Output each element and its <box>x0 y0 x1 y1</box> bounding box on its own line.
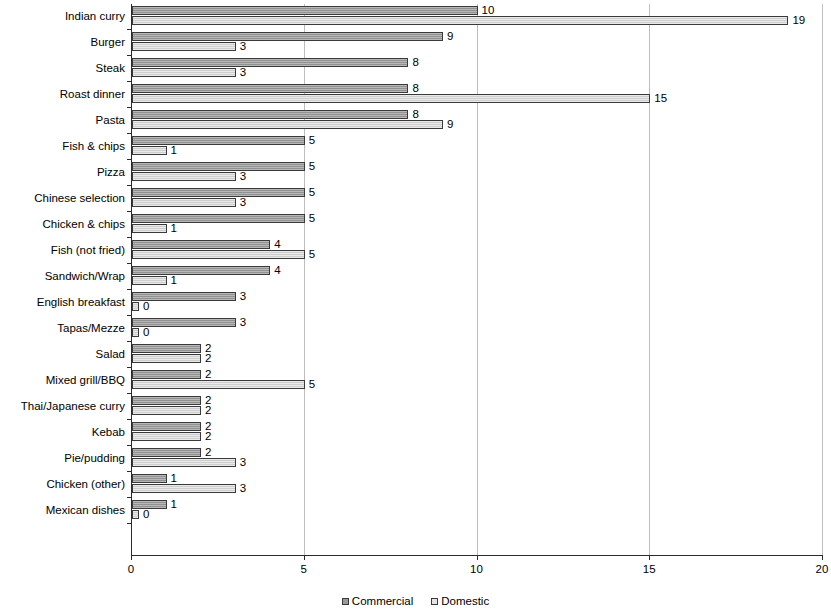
bar-value-domestic: 3 <box>240 483 246 494</box>
bar-value-commercial: 10 <box>482 5 495 16</box>
bar-value-commercial: 5 <box>309 213 315 224</box>
category-label: Steak <box>5 61 125 75</box>
bar-domestic <box>132 94 650 103</box>
category-label: Fish & chips <box>5 139 125 153</box>
bar-commercial <box>132 396 201 405</box>
category-label: Kebab <box>5 425 125 439</box>
category-label: Chicken (other) <box>5 477 125 491</box>
category-row: English breakfast30 <box>0 290 831 316</box>
bar-value-commercial: 5 <box>309 135 315 146</box>
bar-commercial <box>132 110 408 119</box>
bar-value-domestic: 9 <box>447 119 453 130</box>
bar-domestic <box>132 484 236 493</box>
bar-domestic <box>132 406 201 415</box>
category-row: Kebab22 <box>0 420 831 446</box>
x-axis-tick-label: 0 <box>111 563 151 576</box>
x-axis-tick <box>649 555 650 560</box>
category-row: Steak83 <box>0 56 831 82</box>
category-row: Fish (not fried)45 <box>0 238 831 264</box>
category-label: Thai/Japanese curry <box>5 399 125 413</box>
bar-commercial <box>132 266 270 275</box>
bar-commercial <box>132 344 201 353</box>
bar-commercial <box>132 500 167 509</box>
category-label: English breakfast <box>5 295 125 309</box>
category-row: Tapas/Mezze30 <box>0 316 831 342</box>
category-label: Tapas/Mezze <box>5 321 125 335</box>
bar-commercial <box>132 448 201 457</box>
bar-value-domestic: 19 <box>792 15 805 26</box>
bar-commercial <box>132 422 201 431</box>
x-axis-tick-label: 5 <box>284 563 324 576</box>
bar-value-domestic: 2 <box>205 353 211 364</box>
bar-domestic <box>132 250 305 259</box>
category-label: Mixed grill/BBQ <box>5 373 125 387</box>
bar-value-commercial: 8 <box>412 57 418 68</box>
horizontal-bar-chart: Indian curry1019Burger93Steak83Roast din… <box>0 0 831 614</box>
bar-value-domestic: 15 <box>654 93 667 104</box>
category-label: Salad <box>5 347 125 361</box>
bar-domestic <box>132 172 236 181</box>
bar-domestic <box>132 146 167 155</box>
bar-commercial <box>132 32 443 41</box>
x-axis-tick-label: 20 <box>802 563 831 576</box>
legend-swatch-commercial <box>342 598 349 605</box>
bar-commercial <box>132 58 408 67</box>
category-row: Fish & chips51 <box>0 134 831 160</box>
x-axis-tick <box>304 555 305 560</box>
bar-value-commercial: 5 <box>309 161 315 172</box>
legend-item-commercial: Commercial <box>342 594 413 608</box>
bar-value-commercial: 5 <box>309 187 315 198</box>
bar-domestic <box>132 432 201 441</box>
category-row: Indian curry1019 <box>0 4 831 30</box>
bar-value-domestic: 0 <box>143 301 149 312</box>
bar-value-domestic: 1 <box>171 145 177 156</box>
bar-domestic <box>132 380 305 389</box>
category-row: Pasta89 <box>0 108 831 134</box>
bar-value-commercial: 1 <box>171 499 177 510</box>
bar-domestic <box>132 328 139 337</box>
bar-value-domestic: 0 <box>143 327 149 338</box>
bar-value-domestic: 3 <box>240 41 246 52</box>
bar-value-commercial: 1 <box>171 473 177 484</box>
bar-value-commercial: 8 <box>412 83 418 94</box>
bar-domestic <box>132 68 236 77</box>
category-row: Mixed grill/BBQ25 <box>0 368 831 394</box>
category-row: Mexican dishes10 <box>0 498 831 524</box>
bar-domestic <box>132 224 167 233</box>
bar-commercial <box>132 6 478 15</box>
category-label: Burger <box>5 35 125 49</box>
category-label: Pasta <box>5 113 125 127</box>
category-label: Fish (not fried) <box>5 243 125 257</box>
bar-value-commercial: 3 <box>240 291 246 302</box>
bar-domestic <box>132 302 139 311</box>
category-row: Burger93 <box>0 30 831 56</box>
bar-commercial <box>132 162 305 171</box>
category-row: Chicken & chips51 <box>0 212 831 238</box>
bar-commercial <box>132 214 305 223</box>
bar-commercial <box>132 136 305 145</box>
bar-value-domestic: 5 <box>309 379 315 390</box>
x-axis-tick <box>131 555 132 560</box>
bar-commercial <box>132 84 408 93</box>
category-label: Sandwich/Wrap <box>5 269 125 283</box>
bar-commercial <box>132 370 201 379</box>
bar-value-domestic: 3 <box>240 171 246 182</box>
bar-value-domestic: 3 <box>240 457 246 468</box>
category-row: Pizza53 <box>0 160 831 186</box>
bar-value-commercial: 4 <box>274 239 280 250</box>
category-row: Roast dinner815 <box>0 82 831 108</box>
bar-commercial <box>132 240 270 249</box>
bar-domestic <box>132 458 236 467</box>
category-label: Pie/pudding <box>5 451 125 465</box>
bar-value-commercial: 8 <box>412 109 418 120</box>
bar-value-commercial: 4 <box>274 265 280 276</box>
category-row: Sandwich/Wrap41 <box>0 264 831 290</box>
x-axis-tick-label: 10 <box>457 563 497 576</box>
category-label: Roast dinner <box>5 87 125 101</box>
legend-item-domestic: Domestic <box>431 594 489 608</box>
x-axis-tick <box>477 555 478 560</box>
x-axis-tick <box>822 555 823 560</box>
legend-swatch-domestic <box>431 598 438 605</box>
bar-value-commercial: 2 <box>205 369 211 380</box>
bar-value-domestic: 1 <box>171 275 177 286</box>
